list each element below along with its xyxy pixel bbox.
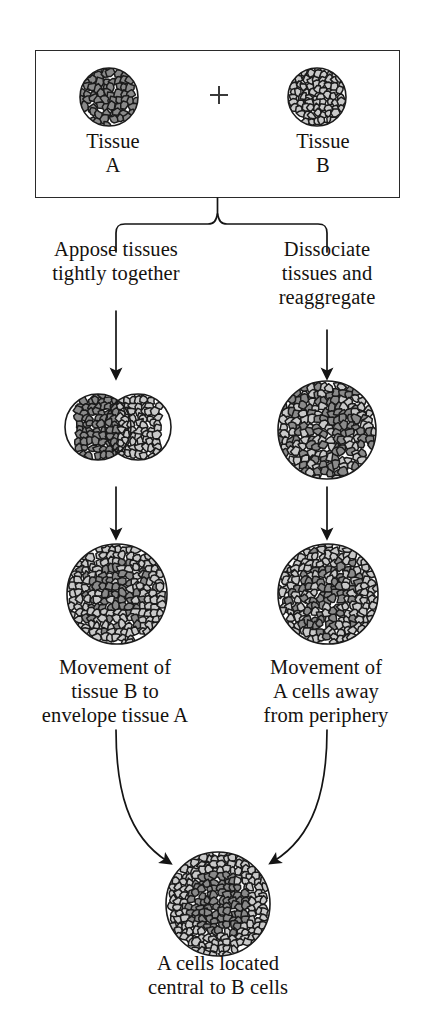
tissue-b-sphere [286,66,348,128]
tissue-a-sphere [78,66,140,128]
right-sorting-sphere [275,541,381,647]
final-sorted-sphere [163,849,273,959]
mixed-aggregate-sphere [275,378,379,482]
fused-spheres [62,383,174,471]
left-sorting-sphere [64,541,170,647]
